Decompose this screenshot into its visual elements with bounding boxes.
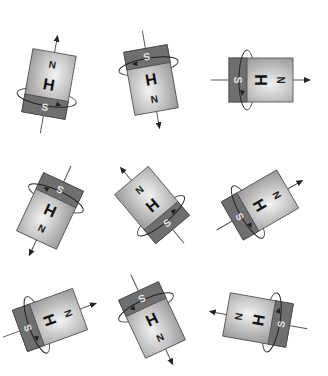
bar-magnet: NHS [206, 282, 313, 358]
h-label: H [252, 74, 269, 86]
bar-magnet: NHS [211, 50, 309, 110]
bar-magnet: NHS [202, 155, 317, 256]
magnets-layer: NHSNHSNHSNHSNHSNHSNHSNHSNHS [0, 26, 317, 376]
south-label: S [232, 77, 243, 84]
north-label: N [275, 76, 286, 83]
bar-magnet: NHS [104, 262, 200, 376]
bar-magnet: NHS [11, 32, 87, 139]
bar-magnet: NHS [0, 275, 105, 365]
magnets-diagram: NHSNHSNHSNHSNHSNHSNHSNHSNHS [0, 0, 328, 376]
bar-magnet: NHS [3, 153, 99, 267]
bar-magnet: NHS [113, 26, 189, 133]
bar-magnet: NHS [98, 149, 207, 263]
